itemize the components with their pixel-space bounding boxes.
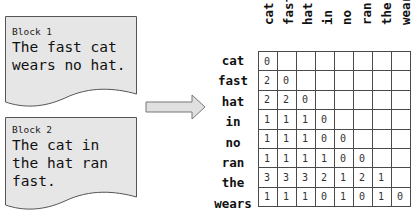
matrix-cell: 0 [335,148,354,167]
matrix-cell: 1 [316,148,335,167]
matrix-cell [316,52,335,71]
matrix-cell: 1 [297,110,316,129]
table-row: 220 [259,90,411,109]
matrix-cell [335,90,354,109]
matrix-cell [373,52,392,71]
column-header: wears [395,0,415,40]
row-label: wears [208,194,258,214]
matrix-cell: 1 [259,148,278,167]
row-label: fast [208,71,258,91]
matrix-cell: 1 [335,187,354,206]
matrix-cell [392,148,411,167]
matrix-cell: 1 [259,187,278,206]
matrix-cell: 0 [316,129,335,148]
matrix-cell [373,148,392,167]
column-header: no [336,0,356,40]
matrix-cell [373,110,392,129]
matrix-cell: 1 [297,187,316,206]
right-arrow-icon [145,93,207,121]
matrix-cell [297,71,316,90]
matrix-cell [392,110,411,129]
matrix-cell [392,168,411,187]
row-label: in [208,112,258,132]
matrix-cell: 2 [259,90,278,109]
matrix-cell [335,52,354,71]
table-row: 1110 [259,110,411,129]
matrix-cell [392,52,411,71]
matrix-cell [373,71,392,90]
row-label: the [208,173,258,193]
column-header: cat [258,0,278,40]
block-text: The fast cat wears no hat. [12,38,126,74]
row-label: ran [208,153,258,173]
block-label: Block 1 [12,26,126,38]
matrix-cell: 2 [354,168,373,187]
matrix-cell [335,110,354,129]
row-label: hat [208,92,258,112]
table-row: 20 [259,71,411,90]
matrix-cell [316,90,335,109]
matrix-cell: 1 [278,148,297,167]
matrix-cell: 0 [316,187,335,206]
matrix-cell [392,90,411,109]
column-header: in [317,0,337,40]
matrix-cell [354,129,373,148]
matrix-cell: 3 [259,168,278,187]
text-block-2: Block 2 The cat in the hat ran fast. [5,117,137,213]
matrix-cell: 0 [335,129,354,148]
matrix-cell: 0 [316,110,335,129]
matrix-cell: 1 [278,129,297,148]
matrix-cell: 1 [259,129,278,148]
matrix-cell: 2 [259,71,278,90]
matrix-cell: 0 [354,187,373,206]
matrix-cell [354,71,373,90]
matrix-cell: 1 [278,110,297,129]
matrix-cell: 2 [278,90,297,109]
row-label: cat [208,51,258,71]
column-header: the [376,0,396,40]
matrix-cell: 0 [278,71,297,90]
table-row: 0 [259,52,411,71]
matrix-cell: 0 [297,90,316,109]
matrix-cell: 3 [278,168,297,187]
matrix-cell: 1 [373,168,392,187]
matrix-cell [297,52,316,71]
text-block-1: Block 1 The fast cat wears no hat. [5,16,137,112]
matrix-cell: 0 [392,187,411,206]
table-row: 11101010 [259,187,411,206]
matrix-cell: 1 [297,129,316,148]
matrix-cell [373,90,392,109]
distance-matrix: 020220111011100111100333212111101010 [258,51,411,207]
matrix-cell [354,90,373,109]
table-row: 3332121 [259,168,411,187]
matrix-cell: 0 [259,52,278,71]
matrix-cell [335,71,354,90]
column-header: hat [297,0,317,40]
block-text: The cat in the hat ran fast. [12,136,108,190]
matrix-cell: 0 [354,148,373,167]
matrix-cell: 1 [259,110,278,129]
matrix-cell: 1 [297,148,316,167]
column-header: fast [278,0,298,40]
row-label: no [208,133,258,153]
column-header: ran [356,0,376,40]
table-row: 11100 [259,129,411,148]
matrix-cell [392,129,411,148]
matrix-cell [354,110,373,129]
matrix-cell: 1 [335,168,354,187]
matrix-cell [392,71,411,90]
matrix-cell [373,129,392,148]
matrix-cell [354,52,373,71]
matrix-cell: 2 [316,168,335,187]
table-row: 111100 [259,148,411,167]
matrix-cell: 1 [373,187,392,206]
matrix-cell [278,52,297,71]
matrix-cell: 3 [297,168,316,187]
block-label: Block 2 [12,124,108,136]
matrix-cell: 1 [278,187,297,206]
matrix-cell [316,71,335,90]
